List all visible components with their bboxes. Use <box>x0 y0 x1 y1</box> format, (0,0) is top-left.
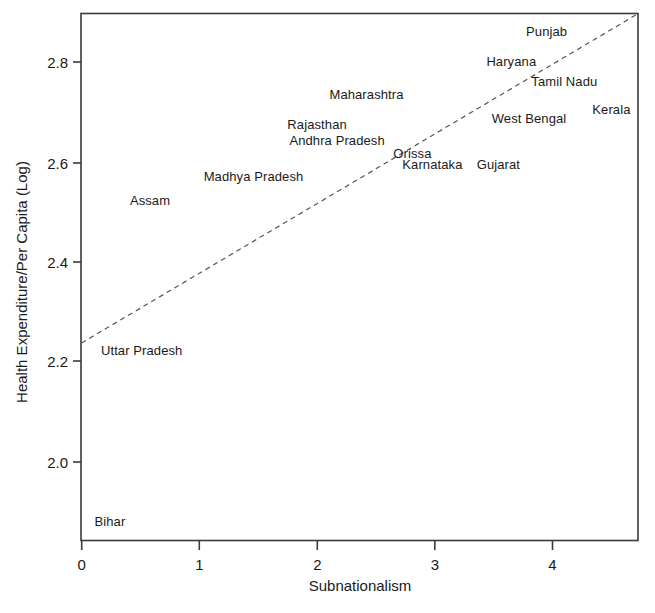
data-point-label: Uttar Pradesh <box>101 343 183 358</box>
data-point-label: Madhya Pradesh <box>204 169 304 184</box>
data-point-label: Karnataka <box>402 156 462 171</box>
data-point-label: Tamil Nadu <box>531 73 597 88</box>
data-point-label: Maharashtra <box>329 86 403 101</box>
x-tick-label-0: 0 <box>78 556 86 573</box>
regression-fit-line <box>82 14 638 343</box>
x-tick-label-2: 2 <box>313 556 321 573</box>
y-tick-label-2-4: 2.4 <box>47 254 68 271</box>
data-point-label: Assam <box>130 192 170 207</box>
x-tick-label-1: 1 <box>195 556 203 573</box>
data-point-label: Gujarat <box>477 156 520 171</box>
data-point-label: Bihar <box>94 513 125 528</box>
y-axis-ticks <box>73 62 81 462</box>
data-point-label: West Bengal <box>492 111 567 126</box>
data-point-label: Haryana <box>486 53 536 68</box>
data-point-label: Andhra Pradesh <box>289 132 384 147</box>
y-tick-label-2-8: 2.8 <box>47 54 68 71</box>
x-axis-ticks <box>82 541 553 551</box>
y-tick-label-2-2: 2.2 <box>47 353 68 370</box>
data-point-label: Rajasthan <box>287 116 346 131</box>
y-tick-label-2-6: 2.6 <box>47 155 68 172</box>
x-tick-label-3: 3 <box>431 556 439 573</box>
x-tick-label-4: 4 <box>548 556 556 573</box>
data-point-label: Kerala <box>592 101 630 116</box>
x-axis-title: Subnationalism <box>309 577 412 594</box>
y-axis-title: Health Expenditure/Per Capita (Log) <box>13 161 30 403</box>
y-tick-label-2-0: 2.0 <box>47 454 68 471</box>
scatter-plot-figure: 2.8 2.6 2.4 2.2 2.0 0 1 2 3 4 Subnationa… <box>0 0 655 613</box>
data-point-label: Punjab <box>526 24 567 39</box>
